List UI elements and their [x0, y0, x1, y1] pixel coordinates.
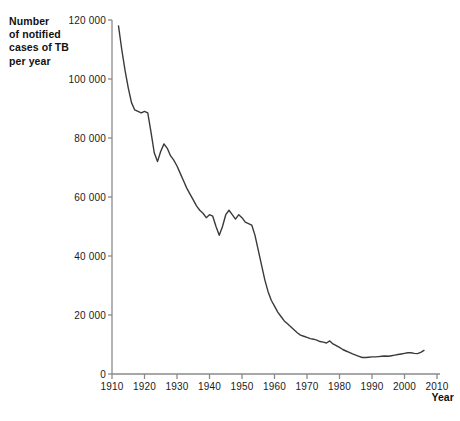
axes-group [108, 20, 440, 379]
data-series-line [119, 26, 425, 358]
plot-area [0, 0, 460, 421]
x-tick-marks [112, 374, 437, 379]
chart-figure: Number of notified cases of TB per year … [0, 0, 460, 421]
figure-caption [0, 409, 460, 421]
